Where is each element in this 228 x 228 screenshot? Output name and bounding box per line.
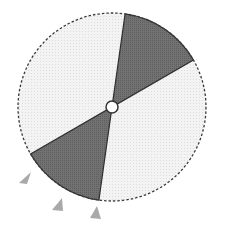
marker-3-triangle-icon [90,206,101,219]
sector-wheel-diagram [0,0,228,228]
center-hub [106,101,118,113]
marker-1-triangle-icon [19,172,31,184]
marker-2-triangle-icon [52,198,63,211]
